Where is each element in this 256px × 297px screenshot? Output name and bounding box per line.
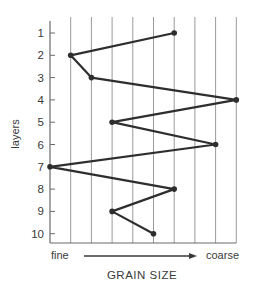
x-scale-coarse-label: coarse xyxy=(206,249,239,261)
y-tick-label: 3 xyxy=(38,72,44,84)
y-tick-label: 7 xyxy=(38,161,44,173)
y-tick-label: 2 xyxy=(38,49,44,61)
y-tick-label: 4 xyxy=(38,94,45,106)
data-point xyxy=(234,97,240,103)
grain-size-line xyxy=(50,33,236,234)
data-point xyxy=(171,186,177,192)
y-tick-label: 8 xyxy=(38,183,44,195)
x-axis-title: GRAIN SIZE xyxy=(107,269,177,281)
arrow-right-icon xyxy=(84,253,197,259)
y-axis-label: layers xyxy=(9,119,21,149)
y-tick-label: 5 xyxy=(38,116,44,128)
data-point xyxy=(109,209,115,215)
y-tick-label: 6 xyxy=(38,139,44,151)
y-tick-label: 1 xyxy=(38,27,44,39)
y-axis-ticks: 12345678910 xyxy=(31,27,55,240)
data-point xyxy=(213,142,219,148)
data-point xyxy=(109,119,115,125)
y-tick-label: 9 xyxy=(38,205,44,217)
grain-size-chart: 12345678910 layers fine coarse GRAIN SIZ… xyxy=(0,0,256,297)
data-point xyxy=(89,75,95,81)
y-tick-label: 10 xyxy=(31,228,44,240)
data-point xyxy=(47,164,53,170)
grain-size-series xyxy=(47,30,239,236)
x-scale-fine-label: fine xyxy=(51,249,69,261)
data-point xyxy=(171,30,177,36)
data-point xyxy=(151,231,157,237)
data-point xyxy=(68,53,74,59)
